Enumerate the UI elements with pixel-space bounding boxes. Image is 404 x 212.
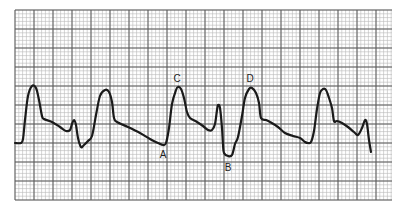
label-b: B [225,162,232,173]
label-a: A [160,149,167,160]
label-c: C [173,73,180,84]
ecg-chart: CDAB [0,0,404,212]
grid-paper [15,10,392,200]
label-d: D [246,73,253,84]
